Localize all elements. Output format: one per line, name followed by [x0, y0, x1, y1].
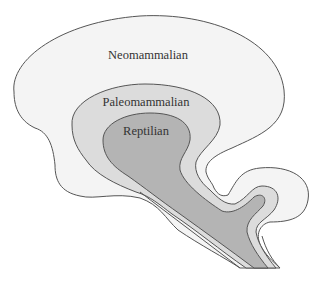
- paleomammalian-label: Paleomammalian: [103, 95, 191, 109]
- reptilian-label: Reptilian: [123, 124, 170, 138]
- brain-svg: Neomammalian Paleomammalian Reptilian: [0, 0, 320, 282]
- neomammalian-label: Neomammalian: [108, 48, 189, 62]
- triune-brain-diagram: Neomammalian Paleomammalian Reptilian: [0, 0, 320, 282]
